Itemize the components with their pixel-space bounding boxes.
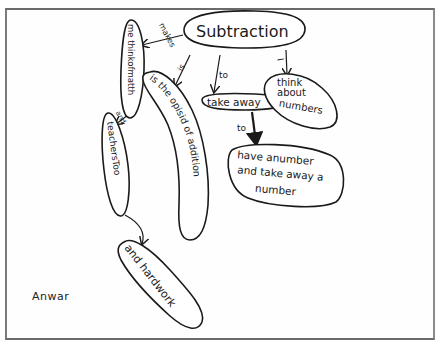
link-to-take-away: to	[214, 55, 229, 92]
node-have-a-number[interactable]: have anumber and take away a number	[228, 145, 343, 207]
svg-text:I: I	[275, 57, 285, 61]
concept-map-canvas: makes and is to I to	[0, 0, 440, 343]
link-is: is	[175, 55, 190, 86]
node-opposite-of-addition[interactable]: is the opisid of addition	[143, 71, 209, 240]
link-i: I	[275, 50, 287, 75]
node-think-of-math[interactable]: me thinkofmatth	[121, 20, 144, 118]
node-think-about-numbers[interactable]: think about numbers	[264, 74, 337, 129]
author-signature: Anwar	[32, 290, 69, 303]
svg-text:take away: take away	[207, 96, 261, 108]
node-and-hardwork[interactable]: and hardwork	[118, 240, 202, 328]
svg-text:Subtraction: Subtraction	[196, 22, 289, 41]
link-teachers-to-hardwork	[125, 215, 143, 244]
link-to-have-number: to	[237, 112, 256, 143]
svg-text:me thinkofmatth: me thinkofmatth	[126, 24, 136, 95]
node-teachers-too[interactable]: teachersToo	[102, 113, 129, 216]
svg-text:to: to	[237, 123, 247, 133]
svg-text:about: about	[277, 87, 306, 98]
svg-text:makes: makes	[157, 22, 177, 49]
node-subtraction[interactable]: Subtraction	[184, 11, 305, 48]
link-makes: makes	[142, 22, 183, 49]
svg-text:to: to	[219, 70, 229, 80]
